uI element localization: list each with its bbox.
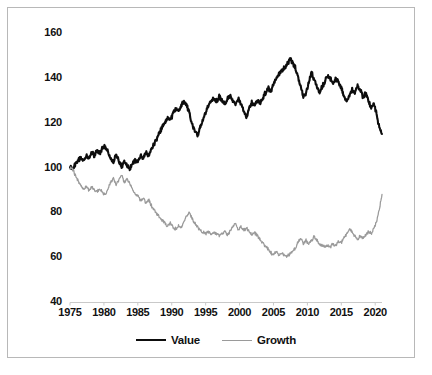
x-tick-label: 1995 xyxy=(188,306,224,318)
chart-legend: ValueGrowth xyxy=(0,334,432,346)
x-tick-label: 2015 xyxy=(323,306,359,318)
legend-label: Growth xyxy=(257,334,296,346)
legend-entry-growth[interactable]: Growth xyxy=(222,334,296,346)
y-tick-label: 120 xyxy=(32,116,62,128)
x-tick-label: 2010 xyxy=(289,306,325,318)
y-tick-label: 60 xyxy=(32,250,62,262)
x-tick-label: 1975 xyxy=(52,306,88,318)
x-tick-label: 2005 xyxy=(255,306,291,318)
x-tick-label: 2020 xyxy=(357,306,393,318)
y-tick-label: 140 xyxy=(32,71,62,83)
legend-swatch-value-icon xyxy=(136,339,166,341)
y-tick-label: 100 xyxy=(32,161,62,173)
series-group xyxy=(70,58,382,257)
line-chart-canvas xyxy=(0,0,432,375)
chart-figure: 160140120100806040 197519801985199019952… xyxy=(0,0,432,375)
y-tick-label: 80 xyxy=(32,205,62,217)
x-tick-label: 2000 xyxy=(222,306,258,318)
series-line-value xyxy=(70,58,382,170)
x-tick-label: 1985 xyxy=(120,306,156,318)
legend-entry-value[interactable]: Value xyxy=(136,334,200,346)
plot-area: 160140120100806040 197519801985199019952… xyxy=(0,0,432,375)
legend-swatch-growth-icon xyxy=(222,340,252,341)
y-tick-label: 160 xyxy=(32,26,62,38)
legend-label: Value xyxy=(171,334,200,346)
series-line-growth xyxy=(70,167,382,257)
x-tick-label: 1980 xyxy=(86,306,122,318)
x-tick-label: 1990 xyxy=(154,306,190,318)
